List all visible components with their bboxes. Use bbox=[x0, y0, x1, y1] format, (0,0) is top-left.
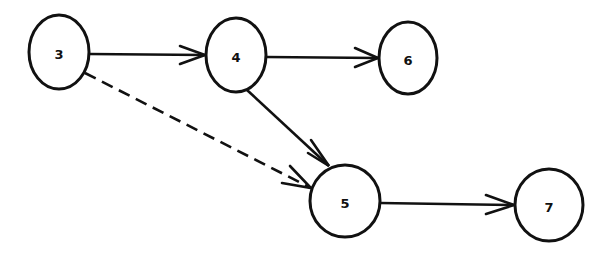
node-7-label: 7 bbox=[544, 200, 553, 215]
node-6: 6 bbox=[379, 22, 437, 94]
node-7: 7 bbox=[515, 169, 583, 241]
node-4-label: 4 bbox=[231, 50, 240, 65]
edge-5-7 bbox=[380, 195, 514, 214]
node-4: 4 bbox=[206, 18, 266, 92]
edge-3-5-dashed bbox=[85, 73, 311, 188]
node-6-label: 6 bbox=[403, 53, 412, 68]
node-3-label: 3 bbox=[54, 47, 63, 62]
network-diagram: 3 4 6 5 7 bbox=[0, 0, 615, 273]
edge-4-5 bbox=[247, 90, 329, 166]
node-5-label: 5 bbox=[340, 196, 349, 211]
edge-4-6 bbox=[266, 48, 378, 67]
node-5: 5 bbox=[310, 165, 380, 237]
node-3: 3 bbox=[29, 15, 89, 89]
edge-3-4 bbox=[89, 46, 205, 64]
